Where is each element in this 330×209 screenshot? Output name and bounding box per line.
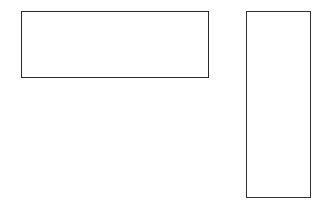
wide-rectangle[interactable] [21, 11, 209, 78]
diagram-canvas [0, 0, 330, 209]
tall-rectangle[interactable] [246, 11, 311, 198]
